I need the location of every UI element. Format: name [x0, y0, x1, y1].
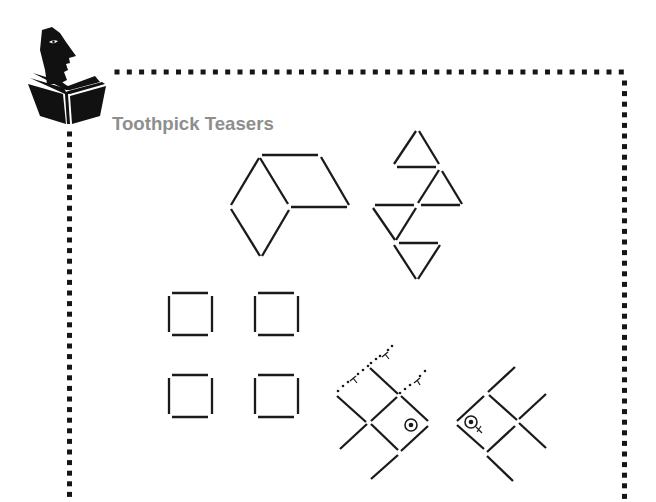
- puzzle-canvas: [0, 0, 656, 502]
- broken-stick-marks: [350, 352, 420, 385]
- fish-eye-icon: [465, 416, 482, 433]
- reader-with-book-icon: [28, 27, 106, 124]
- dotted-border: [67, 70, 627, 499]
- triangles-puzzle: [373, 131, 462, 279]
- dotted-stick-marks: [337, 345, 427, 395]
- four-squares-puzzle: [169, 293, 298, 417]
- fish-eye-icon: [405, 419, 417, 431]
- fish-left-puzzle: [457, 367, 546, 481]
- hexagon-rhombus-puzzle: [231, 155, 349, 256]
- fish-right-puzzle: [337, 345, 428, 479]
